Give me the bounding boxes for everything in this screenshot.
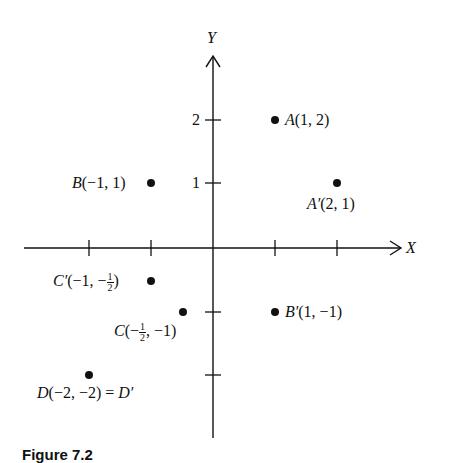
y-axis-label: Y bbox=[207, 30, 216, 46]
point-b bbox=[147, 179, 155, 187]
point-a-prime bbox=[333, 179, 341, 187]
point-b-prime bbox=[271, 308, 279, 316]
point-c bbox=[179, 308, 187, 316]
label-c-prime: C′(−1, −12) bbox=[53, 272, 119, 293]
label-d: D(−2, −2) = D′ bbox=[37, 385, 133, 401]
label-b-prime: B′(1, −1) bbox=[285, 304, 342, 320]
point-c-prime bbox=[147, 277, 155, 285]
figure-caption: Figure 7.2 bbox=[22, 446, 93, 463]
point-a bbox=[271, 116, 279, 124]
label-a-prime: A′(2, 1) bbox=[307, 196, 355, 212]
label-a: A(1, 2) bbox=[285, 112, 329, 128]
x-axis-label: X bbox=[406, 240, 416, 256]
y-tick-label-2: 2 bbox=[192, 112, 200, 128]
label-b: B(−1, 1) bbox=[72, 175, 125, 191]
point-d bbox=[85, 371, 93, 379]
label-c: C(−12, −1) bbox=[114, 322, 176, 343]
y-tick-label-1: 1 bbox=[192, 175, 200, 191]
